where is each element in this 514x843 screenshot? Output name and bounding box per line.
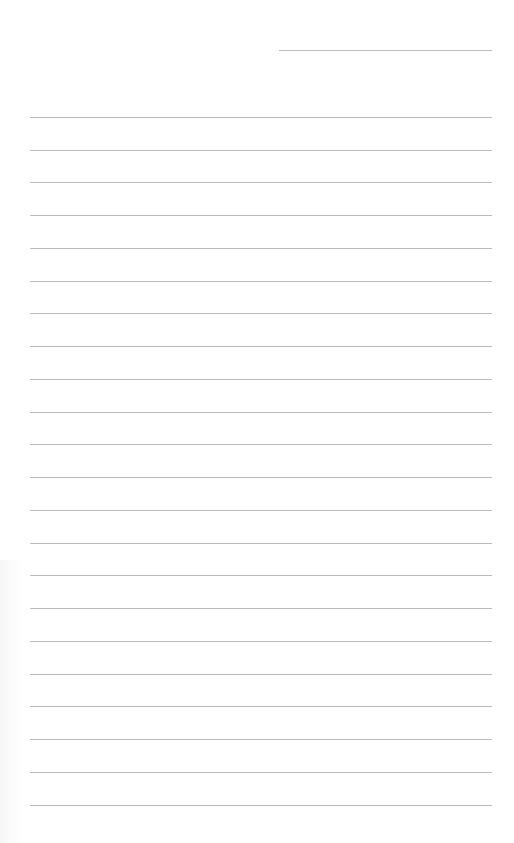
lined-paper-page: [0, 0, 514, 843]
ruled-line: [30, 805, 492, 806]
ruled-line: [30, 444, 492, 445]
ruled-line: [30, 543, 492, 544]
ruled-line: [30, 706, 492, 707]
ruled-line: [30, 674, 492, 675]
ruled-line: [30, 182, 492, 183]
ruled-line: [30, 739, 492, 740]
ruled-line: [30, 575, 492, 576]
ruled-line: [30, 772, 492, 773]
ruled-line: [30, 641, 492, 642]
ruled-line: [30, 379, 492, 380]
ruled-line: [30, 117, 492, 118]
ruled-line: [30, 281, 492, 282]
ruled-line: [30, 248, 492, 249]
page-edge-shadow: [0, 560, 22, 843]
ruled-line: [30, 477, 492, 478]
ruled-line: [30, 313, 492, 314]
ruled-line: [30, 150, 492, 151]
ruled-line: [30, 510, 492, 511]
ruled-line: [30, 215, 492, 216]
ruled-line: [30, 346, 492, 347]
ruled-line: [30, 412, 492, 413]
ruled-line: [30, 608, 492, 609]
date-line: [279, 50, 492, 51]
